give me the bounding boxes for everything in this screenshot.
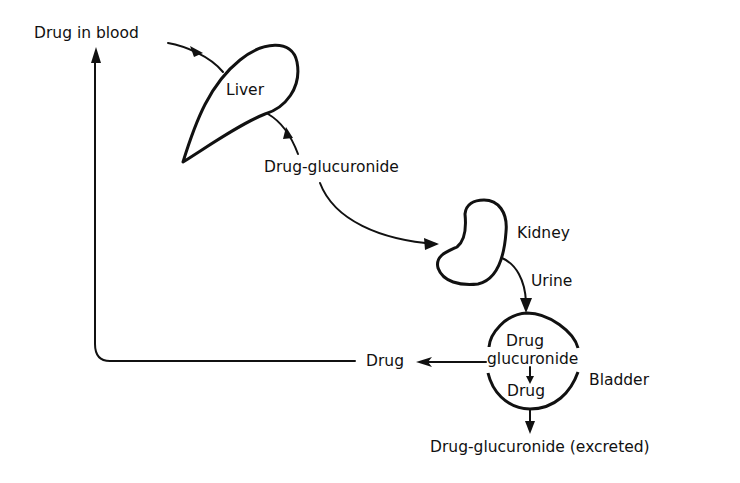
label-bladder-drug-top: Drug — [506, 332, 544, 350]
label-liver: Liver — [226, 81, 265, 99]
label-drug-reabsorbed: Drug — [366, 352, 404, 370]
arrowhead-dg-to-kidney — [424, 238, 439, 250]
arrow-dg-to-kidney — [320, 183, 436, 244]
label-excreted: Drug-glucuronide (excreted) — [430, 438, 650, 456]
liver-shape — [183, 45, 298, 162]
label-urine: Urine — [531, 272, 572, 290]
arrowhead-kidney-to-bladder — [520, 298, 532, 313]
return-loop-line — [95, 60, 355, 361]
label-drug-glucuronide: Drug-glucuronide — [264, 158, 399, 176]
arrow-kidney-to-bladder — [502, 258, 526, 302]
label-bladder-glucuronide: glucuronide — [487, 350, 578, 368]
arrowhead-return-to-blood — [91, 47, 101, 63]
label-bladder-drug-bottom: Drug — [507, 382, 545, 400]
arrow-blood-to-liver — [168, 43, 223, 72]
kidney-shape — [437, 200, 506, 284]
label-bladder: Bladder — [589, 371, 650, 389]
enterohepatic-diagram: Drug in blood Liver Drug-glucuronide Kid… — [0, 0, 740, 483]
label-kidney: Kidney — [517, 224, 570, 242]
label-drug-in-blood: Drug in blood — [34, 24, 139, 42]
arrow-liver-to-dg — [268, 114, 298, 154]
arrowhead-excreted — [525, 421, 535, 434]
